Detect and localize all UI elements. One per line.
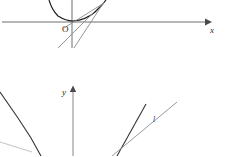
x-axis-label: x xyxy=(209,25,214,35)
figure-canvas: O x y l xyxy=(0,0,226,156)
y-axis-arrow-icon xyxy=(70,86,76,93)
top-panel-group: O x xyxy=(2,0,214,48)
secant-line-2 xyxy=(74,2,104,48)
secant-line-3 xyxy=(64,3,104,28)
left-faint-segment xyxy=(0,142,32,152)
y-axis-label: y xyxy=(61,87,66,97)
left-descending-curve xyxy=(0,92,41,156)
bottom-panel-group: y l xyxy=(0,86,177,157)
right-light-line xyxy=(112,102,177,156)
math-figure-container: O x y l xyxy=(0,0,226,156)
origin-label: O xyxy=(62,24,69,34)
parabola-curve xyxy=(49,0,106,21)
